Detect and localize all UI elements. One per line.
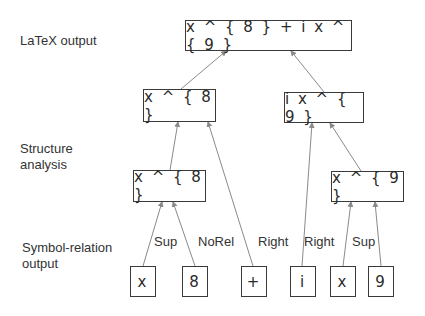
- level-label-structure-line1: Structure: [20, 141, 73, 157]
- symbol-plus: +: [241, 266, 267, 297]
- node-low-right: x ^ { 9 }: [331, 171, 404, 202]
- node-low-left: x ^ { 8 }: [133, 170, 206, 202]
- level-label-symbol-line1: Symbol-relation: [22, 240, 112, 256]
- symbol-8: 8: [182, 266, 208, 297]
- relation-right-plus: Right: [258, 234, 288, 249]
- relation-right-i: Right: [304, 234, 334, 249]
- symbol-x-2: x: [330, 266, 356, 297]
- symbol-x-1: x: [130, 266, 156, 297]
- relation-sup-left: Sup: [154, 234, 177, 249]
- level-label-structure-line2: analysis: [20, 157, 73, 173]
- node-mid-right: i x ^ { 9 }: [284, 92, 364, 123]
- level-label-structure: Structure analysis: [20, 141, 73, 173]
- level-label-latex: LaTeX output: [20, 33, 97, 49]
- level-label-symbol: Symbol-relation output: [22, 240, 112, 272]
- relation-sup-right: Sup: [352, 234, 375, 249]
- symbol-9: 9: [368, 266, 394, 297]
- relation-norel: NoRel: [198, 234, 234, 249]
- level-label-symbol-line2: output: [22, 256, 112, 272]
- symbol-i: i: [290, 266, 316, 297]
- node-root: x ^ { 8 } + i x ^ { 9 }: [185, 20, 352, 51]
- node-mid-left: x ^ { 8 }: [143, 89, 216, 122]
